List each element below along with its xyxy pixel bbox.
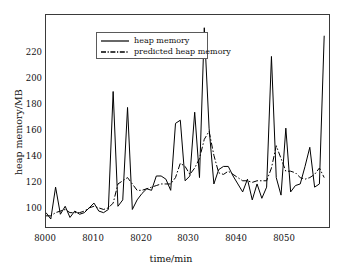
y-tick-200: 200 bbox=[16, 73, 42, 83]
legend-entry-predicted-heap-memory: predicted heap memory bbox=[100, 46, 204, 57]
legend-entry-heap-memory: heap memory bbox=[100, 35, 204, 46]
legend-label-heap-memory: heap memory bbox=[134, 36, 189, 46]
x-axis-title: time/min bbox=[0, 253, 342, 264]
x-tick-8030: 8030 bbox=[173, 233, 203, 243]
x-tick-8010: 8010 bbox=[78, 233, 108, 243]
legend-label-predicted-heap-memory: predicted heap memory bbox=[134, 47, 231, 57]
legend-swatch-dashdot-icon bbox=[100, 47, 130, 57]
y-tick-100: 100 bbox=[16, 203, 42, 213]
plot-area: heap memory predicted heap memory bbox=[45, 14, 330, 228]
y-axis-title: heap memory/MB bbox=[13, 89, 24, 175]
x-tick-8020: 8020 bbox=[126, 233, 156, 243]
legend-swatch-solid-icon bbox=[100, 36, 130, 46]
x-tick-8000: 8000 bbox=[30, 233, 60, 243]
y-tick-120: 120 bbox=[16, 177, 42, 187]
x-tick-8050: 8050 bbox=[269, 233, 299, 243]
chart-container: heap memory predicted heap memory 220 20… bbox=[0, 0, 342, 279]
y-tick-220: 220 bbox=[16, 47, 42, 57]
x-tick-8040: 8040 bbox=[221, 233, 251, 243]
legend: heap memory predicted heap memory bbox=[96, 32, 208, 59]
